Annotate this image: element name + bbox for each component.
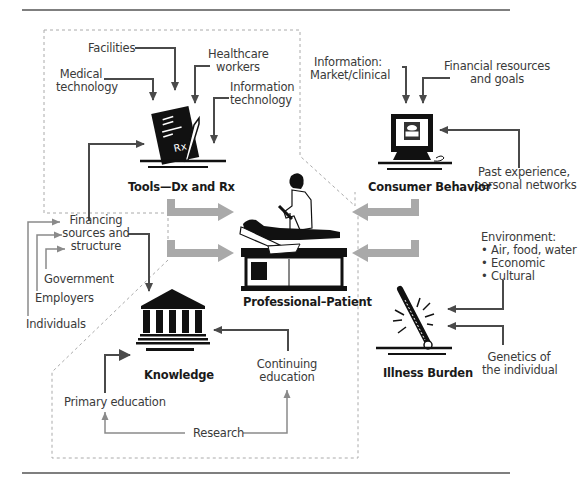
continuing-education-arrow <box>214 330 288 351</box>
government-label: Government <box>44 273 114 286</box>
genetics-line-2: the individual <box>482 364 556 377</box>
research-label: Research <box>193 427 244 440</box>
computer-icon <box>378 114 452 169</box>
information-technology-line-2: technology <box>230 94 292 107</box>
research-to-continuing-arrow <box>243 390 287 433</box>
environment-arrow <box>448 280 503 309</box>
genetics-arrow <box>448 326 503 345</box>
research-to-primary-arrow <box>105 412 185 433</box>
genetics-label: Genetics of the individual <box>482 351 556 377</box>
environment-label: Environment: • Air, food, water • Econom… <box>481 231 576 283</box>
primary-education-arrow <box>105 355 130 393</box>
information-technology-label: Information technology <box>230 81 292 107</box>
environment-item-cultural: • Cultural <box>481 270 576 283</box>
financing-to-knowledge-arrow <box>128 234 149 291</box>
information-market-arrow <box>402 67 406 103</box>
knowledge-title: Knowledge <box>144 368 214 382</box>
financial-resources-label: Financial resources and goals <box>443 60 551 86</box>
professional-patient-title: Professional–Patient <box>243 295 372 309</box>
continuing-education-line-2: education <box>255 371 319 384</box>
facilities-label: Facilities <box>88 42 135 55</box>
doctor-patient-icon <box>240 173 347 291</box>
medical-technology-label: Medical technology <box>56 68 106 94</box>
institution-building-icon <box>136 289 210 351</box>
information-technology-arrow <box>214 98 229 143</box>
continuing-education-label: Continuing education <box>255 358 319 384</box>
individuals-label: Individuals <box>26 318 86 331</box>
illness-burden-title: Illness Burden <box>383 366 473 380</box>
financing-line-3: structure <box>62 240 130 253</box>
employers-label: Employers <box>35 292 94 305</box>
consumer-behavior-title: Consumer Behavior <box>368 180 491 194</box>
financial-resources-line-2: and goals <box>443 73 551 86</box>
information-market-label: Information: Market/clinical <box>310 56 386 82</box>
tools-title: Tools—Dx and Rx <box>128 180 235 194</box>
financing-sources-label: Financing sources and structure <box>62 214 130 253</box>
primary-education-label: Primary education <box>64 396 166 409</box>
healthcare-workers-label: Healthcare workers <box>208 48 268 74</box>
facilities-arrow <box>135 48 175 90</box>
medical-technology-line-2: technology <box>56 81 106 94</box>
information-market-line-2: Market/clinical <box>310 69 386 82</box>
healthcare-workers-line-2: workers <box>208 61 268 74</box>
thermometer-icon <box>376 289 452 354</box>
